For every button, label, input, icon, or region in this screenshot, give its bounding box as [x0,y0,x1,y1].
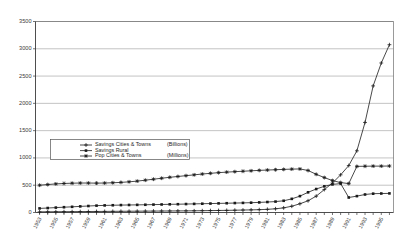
data-point-marker [388,192,391,195]
data-point-marker [364,193,367,196]
data-point-marker [225,202,228,205]
data-point-marker [144,203,147,206]
y-tick-label: 3500 [19,18,31,24]
data-point-marker [103,204,106,207]
data-point-marker [323,185,326,188]
data-point-marker [299,195,302,198]
data-point-marker [85,149,88,152]
data-point-marker [168,203,171,206]
x-tick-label: 1973 [194,216,205,229]
y-tick-label: 2500 [19,73,31,79]
data-point-marker [95,204,98,207]
data-point-marker [234,202,237,205]
line-chart: 0500100015002000250030003500 19531955195… [0,0,409,247]
data-point-marker [307,191,310,194]
data-point-marker [79,205,82,208]
data-point-marker [160,203,163,206]
data-point-marker [71,206,74,209]
series-line [40,45,390,212]
x-tick-label: 1985 [292,216,303,229]
legend-unit: (Billions) [167,141,188,147]
data-point-marker [111,204,114,207]
legend-unit: (Millions) [167,152,189,158]
data-point-marker [63,206,66,209]
data-point-marker [372,192,375,195]
series-2 [38,182,390,209]
legend-item-3: Pop Cities & Towns(Millions) [80,152,189,158]
data-point-marker [209,202,212,205]
x-tick-label: 1991 [341,216,352,229]
x-tick-label: 1989 [325,216,336,229]
y-tick-label: 3000 [19,45,31,51]
data-point-marker [274,200,277,203]
x-tick-label: 1981 [260,216,271,229]
data-point-marker [128,204,131,207]
data-point-marker [55,206,58,209]
x-tick-label: 1987 [308,216,319,229]
data-point-marker [38,207,41,210]
data-series [38,43,392,214]
data-point-marker [356,195,359,198]
x-tick-label: 1975 [211,216,222,229]
x-tick-label: 1995 [373,216,384,229]
data-point-marker [177,203,180,206]
data-point-marker [347,196,350,199]
y-tick-label: 1000 [19,154,31,160]
data-point-marker [282,199,285,202]
data-point-marker [120,204,123,207]
y-tick-label: 1500 [19,127,31,133]
data-point-marker [266,201,269,204]
series-line [40,184,390,209]
data-point-marker [201,202,204,205]
x-tick-label: 1969 [162,216,173,229]
x-axis-ticks: 1953195519571959196119631965196719691971… [32,213,390,230]
data-point-marker [152,203,155,206]
chart-container: 0500100015002000250030003500 19531955195… [0,0,409,247]
gridlines [36,22,394,186]
x-tick-label: 1977 [227,216,238,229]
chart-legend: Savings Cities & Towns(Billions)Savings … [51,140,190,160]
legend-label: Pop Cities & Towns [95,152,142,158]
data-point-marker [193,203,196,206]
data-point-marker [185,203,188,206]
y-axis-ticks: 0500100015002000250030003500 [19,18,35,215]
data-point-marker [258,201,261,204]
x-tick-label: 1967 [146,216,157,229]
x-tick-label: 1963 [113,216,124,229]
data-point-marker [136,204,139,207]
x-tick-label: 1957 [64,216,75,229]
x-tick-label: 1965 [129,216,140,229]
x-tick-label: 1983 [276,216,287,229]
x-tick-label: 1953 [32,216,43,229]
data-point-marker [250,201,253,204]
data-point-marker [290,198,293,201]
x-tick-label: 1993 [357,216,368,229]
series-line [40,166,390,185]
x-tick-label: 1961 [97,216,108,229]
data-point-marker [87,205,90,208]
x-tick-label: 1955 [48,216,59,229]
y-tick-label: 500 [22,182,31,188]
data-point-marker [380,192,383,195]
y-tick-label: 2000 [19,100,31,106]
data-point-marker [331,183,334,186]
data-point-marker [315,188,318,191]
x-tick-label: 1959 [81,216,92,229]
series-1 [38,43,392,214]
data-point-marker [217,202,220,205]
x-tick-label: 1979 [243,216,254,229]
x-tick-label: 1971 [178,216,189,229]
y-tick-label: 0 [28,209,31,215]
data-point-marker [46,207,49,210]
data-point-marker [242,202,245,205]
